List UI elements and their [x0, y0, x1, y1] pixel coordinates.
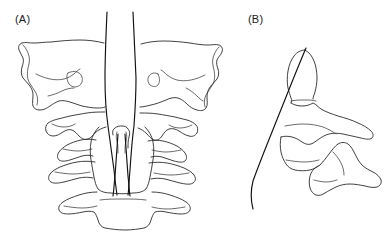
figure-container: (A) (B): [0, 0, 387, 242]
panel-label-b: (B): [248, 13, 263, 25]
figure-background: [0, 0, 387, 242]
panel-label-a: (A): [15, 13, 30, 25]
anatomical-illustration: [0, 0, 387, 242]
